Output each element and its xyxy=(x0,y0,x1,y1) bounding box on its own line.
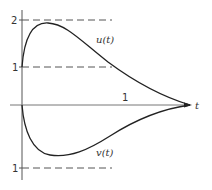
x-tick-label-one: 1 xyxy=(122,92,128,103)
x-axis-label: t xyxy=(195,100,200,111)
v-curve-label: v(t) xyxy=(96,147,114,158)
y-label-upper-one: 1 xyxy=(12,62,18,73)
y-label-two: 2 xyxy=(11,15,17,26)
u-curve-label: u(t) xyxy=(96,34,114,45)
y-label-lower-one: 1 xyxy=(12,163,18,174)
diagram-canvas: 2 1 1 1 t u(t) v(t) xyxy=(0,0,212,190)
